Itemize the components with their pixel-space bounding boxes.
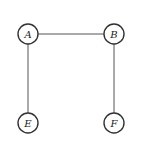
nodes: A B E F [18, 24, 124, 133]
node-b-label: B [109, 29, 117, 40]
node-e: E [18, 113, 38, 133]
graph-diagram: A B E F [0, 0, 144, 142]
node-f: F [104, 113, 124, 133]
edges [28, 34, 114, 113]
node-a-label: A [23, 29, 31, 40]
node-f-label: F [110, 118, 119, 129]
node-b: B [104, 24, 124, 44]
node-a: A [18, 24, 38, 44]
node-e-label: E [23, 118, 32, 129]
